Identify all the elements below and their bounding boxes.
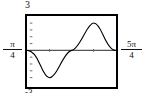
x-min-denominator: 4: [3, 50, 22, 61]
y-max-label: 3: [25, 0, 30, 11]
x-min-label: π 4: [3, 39, 22, 61]
x-max-denominator: 4: [121, 50, 142, 61]
plot-canvas: [27, 16, 116, 87]
y-min-label: -3: [25, 87, 33, 93]
x-max-label: 5π 4: [121, 39, 142, 61]
graph-figure: 3 π: [0, 0, 143, 98]
x-max-numerator: 5π: [121, 39, 142, 50]
x-min-numerator: π: [3, 39, 22, 50]
plot-frame: [25, 14, 118, 89]
